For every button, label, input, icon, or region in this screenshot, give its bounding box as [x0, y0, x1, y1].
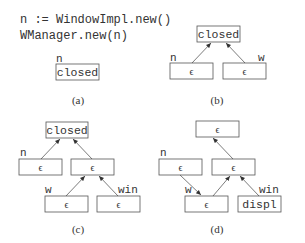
panel-b: closed n w ϵ ϵ (b) — [170, 26, 266, 107]
edge-mid-to-root — [213, 138, 233, 159]
edge-right-to-root — [226, 43, 245, 63]
code-line-1: n := WindowImpl.new() — [20, 13, 171, 27]
edge-bottom-right-to-mid — [99, 176, 118, 196]
var-n-label: n — [56, 53, 63, 65]
node-mid-label: ϵ — [90, 162, 94, 173]
panel-a: n closed (a) — [56, 53, 99, 107]
edge-left-to-root — [41, 139, 60, 159]
var-w-label: w — [45, 184, 52, 196]
edge-left-to-root — [192, 43, 211, 63]
var-win-label: win — [259, 184, 279, 196]
panel-d: ϵ n ϵ ϵ w win ϵ displ (d) — [159, 121, 281, 236]
node-left-label: ϵ — [189, 66, 193, 77]
node-bottom-left-label: ϵ — [204, 199, 208, 210]
node-root-label: closed — [46, 124, 87, 137]
var-w-label: w — [258, 52, 265, 64]
caption-c: (c) — [72, 223, 85, 236]
panel-c: closed n ϵ ϵ w win ϵ ϵ (c) — [19, 122, 140, 236]
node-left-label: ϵ — [178, 162, 182, 173]
var-n-label: n — [160, 147, 167, 159]
node-left-label: ϵ — [38, 162, 42, 173]
code-line-2: WManager.new(n) — [20, 29, 128, 43]
var-n-label: n — [20, 147, 27, 159]
node-right-label: ϵ — [242, 66, 246, 77]
caption-a: (a) — [72, 94, 85, 107]
node-root-label: ϵ — [215, 124, 219, 135]
edge-bottom-right-to-mid — [240, 176, 259, 196]
caption-d: (d) — [211, 223, 224, 236]
node-root-label: closed — [57, 66, 98, 79]
edge-bottom-left-to-mid — [213, 176, 230, 196]
var-win-label: win — [118, 184, 138, 196]
caption-b: (b) — [211, 94, 224, 107]
diagram-canvas: n := WindowImpl.new() WManager.new(n) n … — [0, 0, 305, 243]
node-bottom-left-label: ϵ — [64, 199, 68, 210]
var-n-label: n — [170, 52, 177, 64]
node-root-label: closed — [198, 28, 239, 41]
node-bottom-right-label: ϵ — [116, 199, 120, 210]
edge-bottom-left-to-mid — [66, 176, 85, 196]
edge-mid-to-root — [73, 139, 92, 159]
node-bottom-right-label: displ — [242, 198, 277, 211]
node-mid-label: ϵ — [231, 162, 235, 173]
